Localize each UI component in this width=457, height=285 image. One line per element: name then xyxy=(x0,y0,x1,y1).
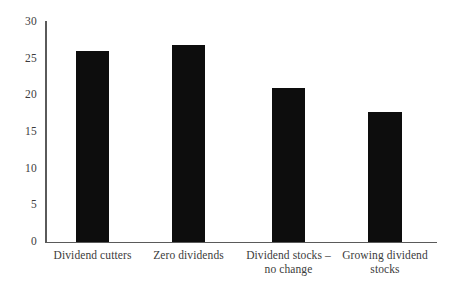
y-tick-label: 5 xyxy=(0,200,37,212)
x-axis-label: Dividend cutters xyxy=(45,248,141,262)
bar xyxy=(272,88,305,242)
y-tick-label: 25 xyxy=(0,53,37,65)
y-tick-label: 15 xyxy=(0,126,37,138)
y-tick-label: 30 xyxy=(0,16,37,28)
x-axis-label: Growing dividend stocks xyxy=(337,248,433,276)
bar xyxy=(368,112,402,242)
x-axis-label: Dividend stocks – no change xyxy=(241,248,337,276)
y-axis-tick-labels: 302520151050 xyxy=(0,0,37,285)
y-tick-label: 10 xyxy=(0,163,37,175)
bar xyxy=(172,45,205,242)
x-axis-category-labels: Dividend cuttersZero dividendsDividend s… xyxy=(45,248,437,285)
bar xyxy=(76,51,109,242)
plot-area xyxy=(45,22,437,242)
y-tick-label: 20 xyxy=(0,90,37,102)
bar-chart-figure: 302520151050 Dividend cuttersZero divide… xyxy=(0,0,457,285)
y-tick-label: 0 xyxy=(0,236,37,248)
x-axis-label: Zero dividends xyxy=(141,248,237,262)
